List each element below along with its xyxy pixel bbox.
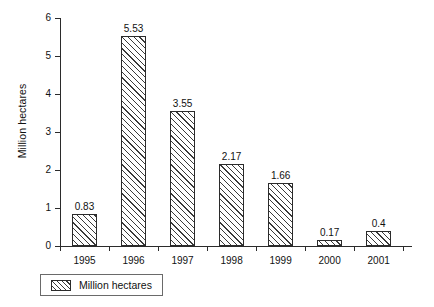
bar[interactable]: 5.53: [121, 36, 146, 246]
x-tick: [256, 246, 257, 251]
chart-legend: Million hectares: [40, 274, 163, 296]
y-tick-label: 3: [45, 125, 51, 138]
y-tick: 3: [55, 132, 60, 133]
bar-value-label: 5.53: [124, 22, 143, 35]
x-tick-label: 2001: [349, 254, 409, 267]
x-tick: [403, 246, 404, 251]
x-tick: [60, 246, 61, 251]
y-tick-label: 5: [45, 49, 51, 62]
y-tick-label: 4: [45, 87, 51, 100]
x-axis-line: [60, 246, 412, 247]
y-tick: 1: [55, 208, 60, 209]
x-tick: [354, 246, 355, 251]
plot-area: 0123456 1995199619971998199920002001 0.8…: [60, 18, 412, 246]
y-tick: 6: [55, 18, 60, 19]
x-tick: [158, 246, 159, 251]
legend-swatch-icon: [51, 280, 71, 291]
bar[interactable]: 0.83: [72, 214, 97, 246]
bar-chart: Million hectares 0123456 199519961997199…: [0, 0, 434, 307]
y-tick: 5: [55, 56, 60, 57]
bar[interactable]: 0.17: [317, 240, 342, 246]
y-tick: 4: [55, 94, 60, 95]
x-tick: [207, 246, 208, 251]
y-tick-label: 1: [45, 201, 51, 214]
bar[interactable]: 0.4: [366, 231, 391, 246]
y-axis-title: Million hectares: [16, 61, 28, 181]
bar-value-label: 3.55: [173, 97, 192, 110]
bar[interactable]: 1.66: [268, 183, 293, 246]
x-tick: [109, 246, 110, 251]
bar-value-label: 0.17: [320, 226, 339, 239]
bar-value-label: 2.17: [222, 150, 241, 163]
x-tick: [305, 246, 306, 251]
bar-value-label: 0.83: [75, 200, 94, 213]
bar[interactable]: 3.55: [170, 111, 195, 246]
y-tick-label: 2: [45, 163, 51, 176]
bar[interactable]: 2.17: [219, 164, 244, 246]
y-tick: 2: [55, 170, 60, 171]
y-tick-label: 6: [45, 11, 51, 24]
bar-value-label: 1.66: [271, 169, 290, 182]
y-axis-line: [60, 18, 61, 246]
bar-value-label: 0.4: [372, 217, 386, 230]
y-tick-label: 0: [45, 239, 51, 252]
legend-label: Million hectares: [79, 279, 152, 292]
